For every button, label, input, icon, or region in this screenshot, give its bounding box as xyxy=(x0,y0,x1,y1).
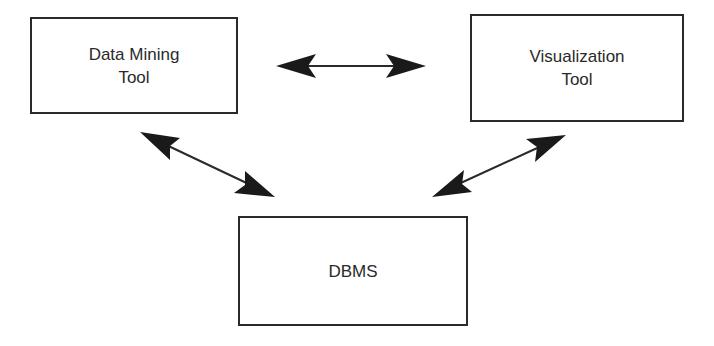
node-data-mining-tool: Data Mining Tool xyxy=(30,17,238,114)
arrow-mining-visualization xyxy=(276,54,426,78)
node-visualization-tool: Visualization Tool xyxy=(470,14,684,122)
node-label-line1: Data Mining xyxy=(89,43,180,66)
node-dbms: DBMS xyxy=(238,216,468,326)
node-label-line2: Tool xyxy=(89,66,180,89)
node-label-line1: DBMS xyxy=(328,260,377,283)
arrow-visualization-dbms xyxy=(432,135,566,197)
node-label-line1: Visualization xyxy=(529,45,624,68)
arrow-mining-dbms xyxy=(140,132,275,197)
node-label-line2: Tool xyxy=(529,68,624,91)
